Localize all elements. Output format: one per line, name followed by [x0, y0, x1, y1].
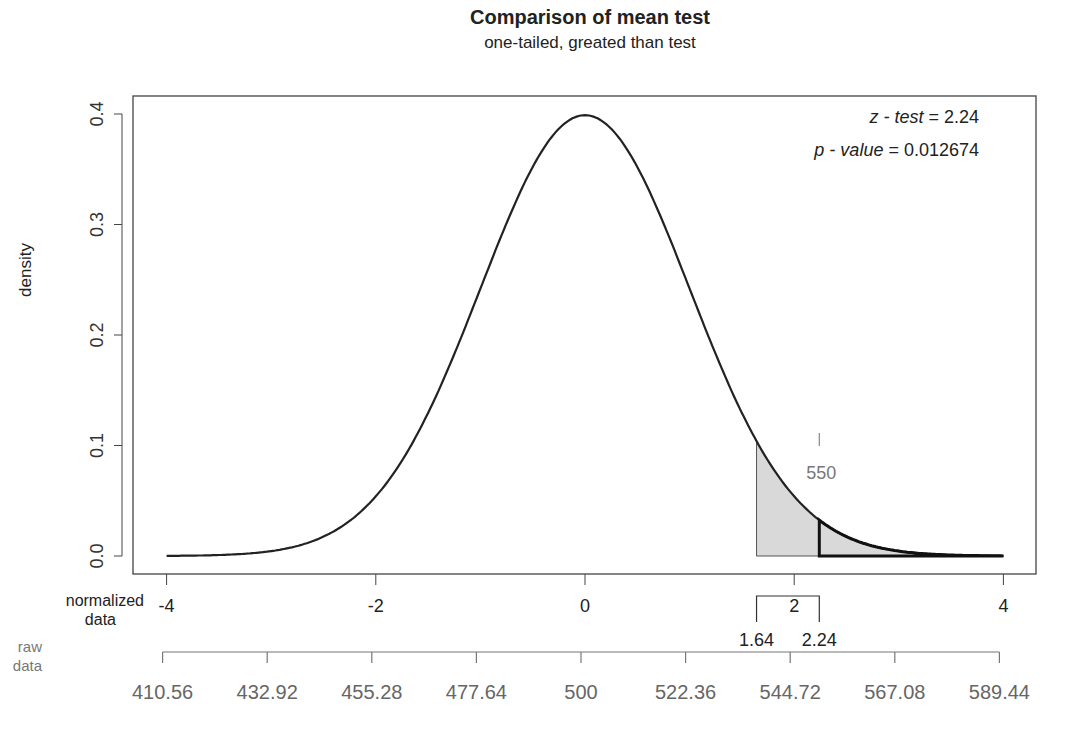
critical-region-shade — [757, 441, 1004, 556]
y-tick-label: 0.3 — [87, 212, 107, 237]
x-tick-label: -4 — [159, 596, 175, 616]
x-tick-label: 4 — [998, 596, 1008, 616]
raw-tick-label: 522.36 — [655, 681, 716, 703]
y-axis: 0.00.10.20.30.4 — [87, 101, 122, 568]
critical-value-label: 1.64 — [739, 630, 774, 650]
shaded-area — [757, 441, 1004, 556]
raw-tick-label: 500 — [564, 681, 597, 703]
raw-tick-label: 567.08 — [864, 681, 925, 703]
y-tick-label: 0.0 — [87, 543, 107, 568]
y-tick-label: 0.4 — [87, 101, 107, 126]
raw-marker-label: 550 — [806, 463, 836, 483]
x-tick-label: -2 — [368, 596, 384, 616]
raw-tick-label: 589.44 — [969, 681, 1030, 703]
x-tick-label: 0 — [580, 596, 590, 616]
y-tick-label: 0.2 — [87, 322, 107, 347]
x-axis-raw: 410.56432.92455.28477.64500522.36544.725… — [132, 652, 1030, 703]
raw-tick-label: 477.64 — [446, 681, 507, 703]
test-statistic-label: 2.24 — [802, 630, 837, 650]
crit-bracket — [757, 596, 820, 622]
density-chart: 0.00.10.20.30.4 -4-2024 410.56432.92455.… — [0, 0, 1071, 736]
y-tick-label: 0.1 — [87, 433, 107, 458]
x-axis-normalized: -4-2024 — [159, 574, 1009, 616]
normal-curve — [167, 115, 1004, 556]
raw-tick-label: 432.92 — [237, 681, 298, 703]
x-tick-label: 2 — [789, 596, 799, 616]
raw-tick-label: 455.28 — [341, 681, 402, 703]
density-curve — [167, 115, 1004, 556]
raw-tick-label: 544.72 — [760, 681, 821, 703]
raw-tick-label: 410.56 — [132, 681, 193, 703]
plot-frame — [133, 96, 1036, 574]
